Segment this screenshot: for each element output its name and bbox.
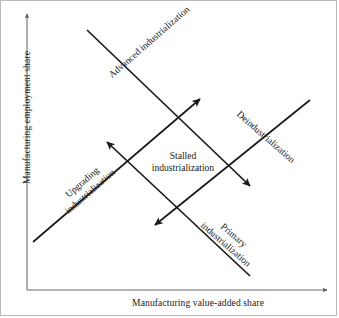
label-stalled-line2: industrialization xyxy=(132,162,234,174)
label-stalled-industrialization: Stalled industrialization xyxy=(132,150,234,174)
figure-container: Manufacturing employment share Manufactu… xyxy=(0,0,339,318)
y-axis-label: Manufacturing employment share xyxy=(21,30,32,206)
x-axis-label: Manufacturing value-added share xyxy=(132,297,264,308)
label-stalled-line1: Stalled xyxy=(132,150,234,162)
